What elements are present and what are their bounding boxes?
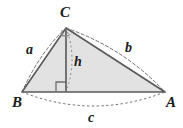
side-label-b: b [125, 41, 132, 55]
vertex-label-c: C [60, 5, 70, 20]
side-label-c: c [88, 111, 94, 125]
vertex-label-b: B [12, 95, 22, 110]
triangle-drawing [0, 0, 183, 128]
altitude-label-h: h [74, 55, 82, 69]
triangle-abc-shape [22, 28, 165, 92]
side-label-a: a [26, 43, 33, 57]
side-c-arc [22, 92, 165, 106]
geometry-figure: C B A a b c h [0, 0, 183, 128]
vertex-label-a: A [166, 95, 176, 110]
